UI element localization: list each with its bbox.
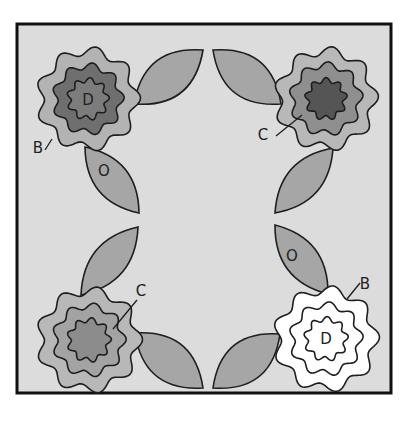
diagram-canvas: DBOCCOBD: [0, 0, 414, 425]
label-c-top-right: C: [258, 126, 268, 144]
label-d-top-left: D: [82, 91, 94, 109]
label-o-bottom-right: O: [286, 247, 298, 265]
label-b-bottom-right: B: [360, 275, 370, 293]
label-c-bottom-left: C: [136, 282, 146, 300]
label-b-top-left: B: [33, 139, 43, 157]
quilt-block-diagram: DBOCCOBD: [0, 0, 414, 425]
label-o-top-left: O: [98, 162, 110, 180]
label-d-bottom-right: D: [320, 330, 332, 348]
